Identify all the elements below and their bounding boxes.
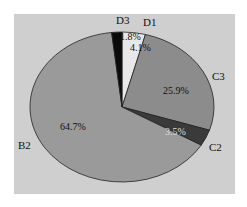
label-b2: B2 — [18, 139, 31, 151]
pie-slices — [30, 32, 214, 182]
pct-d1: 4.1% — [130, 42, 151, 53]
label-d1: D1 — [143, 16, 156, 28]
label-c2: C2 — [209, 141, 222, 153]
pct-c3: 25.9% — [163, 85, 189, 96]
label-c3: C3 — [212, 70, 225, 82]
pct-b2: 64.7% — [60, 121, 86, 132]
pct-d3: 1.8% — [120, 31, 141, 42]
pie-chart: D3 D1 C3 C2 B2 1.8% 4.1% 25.9% 3.5% 64.7… — [0, 0, 247, 207]
label-d3: D3 — [116, 14, 130, 26]
pct-c2: 3.5% — [165, 126, 186, 137]
